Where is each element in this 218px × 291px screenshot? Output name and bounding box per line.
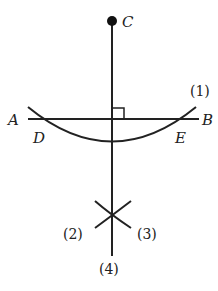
label-step-1: (1): [190, 83, 210, 99]
right-angle-mark: [112, 108, 124, 119]
point-c: [107, 16, 117, 26]
construction-diagram: C A B D E (1) (2) (3) (4): [0, 0, 218, 291]
label-d: D: [32, 129, 45, 147]
label-step-4: (4): [99, 261, 119, 277]
label-b: B: [201, 111, 213, 129]
label-e: E: [174, 129, 186, 147]
label-a: A: [6, 111, 19, 129]
label-step-3: (3): [137, 226, 157, 242]
label-c: C: [122, 13, 134, 31]
label-step-2: (2): [63, 226, 83, 242]
